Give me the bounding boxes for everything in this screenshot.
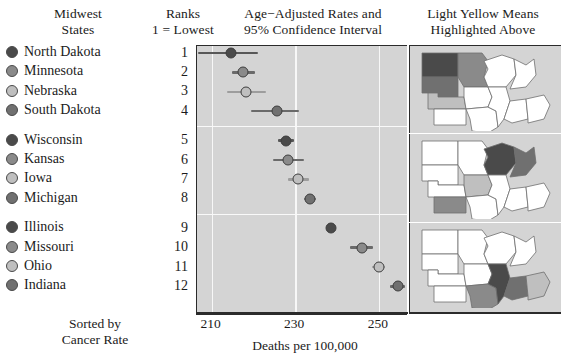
dot-plot-figure: Midwest States Ranks 1 = Lowest Age−Adju… [0,0,562,359]
state-name-label: Illinois [24,219,64,235]
state-swatch-icon [6,192,18,204]
x-axis-tick-label: 230 [284,316,304,332]
rate-data-point [238,67,249,78]
map-state-north-dakota [422,53,458,77]
rate-data-point [325,223,336,234]
vertical-gridline [212,46,214,313]
state-swatch-icon [6,85,18,97]
rank-value: 9 [148,218,188,237]
rank-value: 10 [148,237,188,256]
map-state-south-dakota [422,254,458,274]
rate-data-point [392,281,403,292]
state-swatch-icon [6,65,18,77]
map-state-ohio [526,272,550,300]
map-state-missouri [466,107,498,131]
map-state-wisconsin [484,143,516,175]
map-panel-2 [409,134,561,223]
rate-data-point [271,106,282,117]
state-swatch-icon [6,221,18,233]
rate-data-point [225,48,236,59]
map-state-iowa [464,87,492,109]
x-axis-line [196,313,407,315]
x-axis-tick-label: 250 [368,316,388,332]
midwest-map [414,49,558,131]
state-name-label: Kansas [24,151,64,167]
midwest-map [414,137,558,219]
column-header-ranks: Ranks 1 = Lowest [140,6,226,37]
state-swatch-icon [6,134,18,146]
x-axis-tick-label: 210 [200,316,220,332]
rank-value: 3 [148,81,188,100]
midwest-map [414,226,558,308]
map-state-wisconsin [484,232,516,264]
map-state-south-dakota [422,165,458,185]
state-name-label: Nebraska [24,83,77,99]
map-state-kansas [434,286,466,302]
x-axis-label: Deaths per 100,000 [210,338,400,354]
rate-data-point [280,135,291,146]
map-state-minnesota [458,53,488,87]
rank-value: 6 [148,150,188,169]
rank-value: 11 [148,257,188,276]
state-swatch-icon [6,279,18,291]
state-name-label: Indiana [24,277,66,293]
state-name-label: Michigan [24,190,78,206]
map-state-kansas [434,109,466,125]
map-state-missouri [466,284,498,308]
rate-data-point [357,242,368,253]
vertical-gridline [379,46,381,313]
map-state-iowa [464,175,492,197]
rank-value: 2 [148,62,188,81]
rank-value: 8 [148,188,188,207]
column-header-rates: Age−Adjusted Rates and 95% Confidence In… [218,6,408,37]
state-swatch-icon [6,260,18,272]
map-panel-3 [409,223,561,312]
rank-value: 5 [148,130,188,149]
map-state-wisconsin [484,55,516,87]
state-name-label: Minnesota [24,63,83,79]
rate-data-point [283,155,294,166]
group-separator-gridline [197,214,407,216]
state-swatch-icon [6,104,18,116]
column-header-maps: Light Yellow Means Highlighted Above [406,6,560,37]
map-state-iowa [464,264,492,286]
state-swatch-icon [6,241,18,253]
state-swatch-icon [6,172,18,184]
map-state-ohio [526,183,550,211]
map-state-south-dakota [422,77,458,97]
map-state-minnesota [458,230,488,264]
state-name-label: South Dakota [24,102,101,118]
map-state-missouri [466,195,498,219]
state-name-label: Missouri [24,239,74,255]
state-name-label: Ohio [24,258,52,274]
rate-data-point [293,174,304,185]
rank-value: 12 [148,276,188,295]
state-name-label: Wisconsin [24,132,83,148]
state-name-label: North Dakota [24,44,101,60]
map-state-kansas [434,197,466,213]
rate-data-point [304,193,315,204]
state-name-label: Iowa [24,170,52,186]
column-header-states: Midwest States [8,6,148,37]
map-state-minnesota [458,141,488,175]
rate-data-point [241,86,252,97]
rank-value: 7 [148,169,188,188]
rank-value: 4 [148,101,188,120]
rate-data-point [373,262,384,273]
map-state-ohio [526,95,550,123]
state-swatch-icon [6,153,18,165]
map-state-north-dakota [422,230,458,254]
state-swatch-icon [6,46,18,58]
map-state-north-dakota [422,141,458,165]
map-bottom-rule [409,312,561,314]
group-separator-gridline [197,126,407,128]
rank-value: 1 [148,43,188,62]
plot-panel [196,45,407,313]
map-panel-1 [409,45,561,134]
sorted-by-note: Sorted by Cancer Rate [10,316,180,348]
